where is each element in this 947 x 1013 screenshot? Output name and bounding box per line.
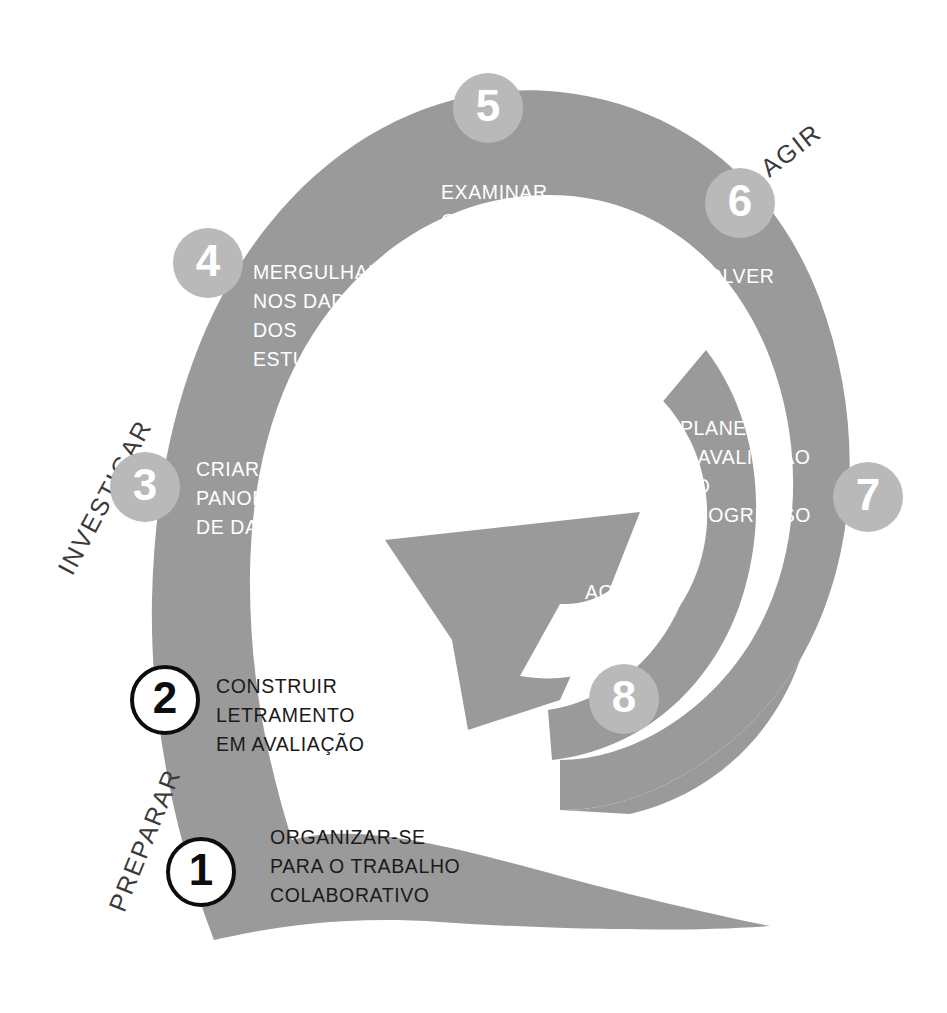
step-label-2: CONSTRUIR LETRAMENTO EM AVALIAÇÃO (216, 672, 364, 759)
step-badge-1[interactable]: 1 (166, 837, 236, 907)
step-number-2: 2 (153, 676, 177, 720)
step-badge-7[interactable]: 7 (833, 462, 903, 532)
step-label-8: AGIR E AVALIAR (585, 578, 669, 636)
spiral-diagram: INVESTIGAR PREPARAR AGIR 5 EXAMINAR O EN… (0, 0, 947, 1013)
step-label-3: CRIAR UM PANORAMA DE DADOS (196, 455, 311, 542)
step-label-4: MERGULHAR NOS DADOS DOS ESTUDANTES (253, 258, 390, 373)
step-badge-5[interactable]: 5 (453, 73, 523, 143)
step-label-1: ORGANIZAR-SE PARA O TRABALHO COLABORATIV… (270, 823, 460, 910)
step-number-4: 4 (196, 239, 220, 283)
step-label-5: EXAMINAR O ENSINO (441, 178, 548, 236)
step-number-5: 5 (476, 84, 500, 128)
step-badge-8[interactable]: 8 (589, 664, 659, 734)
step-badge-2[interactable]: 2 (130, 665, 200, 735)
step-number-7: 7 (856, 473, 880, 517)
step-badge-3[interactable]: 3 (110, 452, 180, 522)
step-number-3: 3 (133, 463, 157, 507)
step-label-6: DESENVOLVER UM PLANO DE AÇÃO (623, 262, 774, 349)
step-label-7: PLANEJAR A AVALIAÇÃO DO PROGRESSO (680, 414, 811, 529)
step-number-1: 1 (189, 848, 213, 892)
step-badge-6[interactable]: 6 (705, 168, 775, 238)
step-badge-4[interactable]: 4 (173, 228, 243, 298)
step-number-8: 8 (612, 675, 636, 719)
step-number-6: 6 (728, 179, 752, 223)
